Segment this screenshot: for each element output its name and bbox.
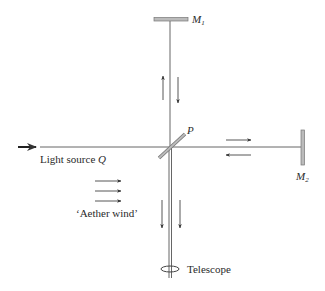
label-light-source: Light source Q — [40, 153, 106, 165]
mirror-m1 — [154, 18, 188, 22]
label-p: P — [186, 124, 194, 136]
label-m2: M2 — [295, 170, 309, 184]
label-aether-wind: ‘Aether wind’ — [76, 207, 138, 219]
mirror-m2 — [301, 130, 305, 165]
aether-wind-arrows — [95, 181, 121, 201]
label-telescope: Telescope — [187, 263, 231, 275]
label-m1: M1 — [191, 13, 205, 27]
interferometer-diagram: M1 M2 P Light source Q ‘Aether wind’ Tel… — [0, 0, 325, 291]
telescope-lens — [161, 266, 179, 272]
